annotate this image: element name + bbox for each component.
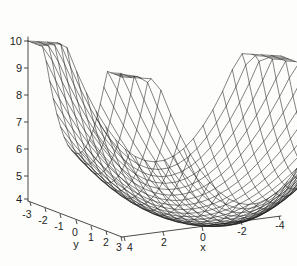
z-tick-label: 6 bbox=[16, 143, 22, 155]
z-tick-label: 5 bbox=[16, 170, 22, 182]
z-tick-label: 8 bbox=[16, 89, 22, 101]
z-tick-label: 7 bbox=[16, 116, 22, 128]
x-tick-label: 4 bbox=[127, 241, 133, 253]
y-tick-label: -3 bbox=[22, 208, 31, 220]
plot-background bbox=[0, 0, 297, 266]
x-tick-label: -2 bbox=[237, 225, 246, 237]
z-tick-label: 9 bbox=[16, 62, 22, 74]
y-tick-label: -2 bbox=[38, 214, 47, 226]
surface-plot-figure: 10 9 8 7 6 5 4 -3 -2 -1 0 1 2 3 y bbox=[0, 0, 297, 266]
z-tick-label: 10 bbox=[10, 35, 22, 47]
x-axis-title: x bbox=[200, 241, 206, 253]
y-tick-label: 2 bbox=[103, 236, 109, 248]
y-tick-label: -1 bbox=[54, 220, 63, 232]
y-tick-label: 1 bbox=[88, 231, 94, 243]
y-tick-label: 0 bbox=[72, 226, 78, 238]
x-tick-label: 2 bbox=[161, 236, 167, 248]
y-axis-title: y bbox=[73, 238, 79, 250]
z-tick-label: 4 bbox=[16, 193, 22, 205]
x-tick-label: -4 bbox=[275, 219, 284, 231]
y-tick-label: 3 bbox=[116, 241, 122, 253]
plot-canvas: 10 9 8 7 6 5 4 -3 -2 -1 0 1 2 3 y bbox=[0, 0, 297, 266]
